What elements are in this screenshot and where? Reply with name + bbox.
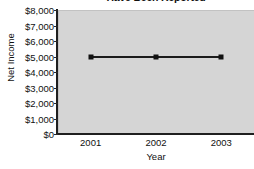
x-axis-tick-label: 2002 <box>128 137 184 148</box>
data-line-segment <box>156 56 221 58</box>
y-axis-tick-label: $7,000 <box>12 20 54 31</box>
y-axis-tick-label: $2,000 <box>12 98 54 109</box>
x-axis-tick-label: 2001 <box>63 137 119 148</box>
y-axis-tick-label: $5,000 <box>12 51 54 62</box>
y-axis-tick-label: $3,000 <box>12 82 54 93</box>
y-axis-tick-label: $1,000 <box>12 113 54 124</box>
chart-title: Have Been Reported <box>58 0 254 3</box>
y-axis-tick-mark <box>54 134 58 135</box>
data-point-marker <box>154 54 159 59</box>
data-line-segment <box>91 56 156 58</box>
y-axis-tick-mark <box>54 88 58 89</box>
y-axis-tick-mark <box>54 57 58 58</box>
data-point-marker <box>88 54 93 59</box>
y-axis-tick-label: $4,000 <box>12 67 54 78</box>
x-axis-tick-label: 2003 <box>193 137 249 148</box>
y-axis-tick-label: $8,000 <box>12 5 54 16</box>
y-axis-tick-mark <box>54 10 58 11</box>
y-axis-tick-mark <box>54 72 58 73</box>
data-series-layer <box>58 10 254 134</box>
x-axis-title: Year <box>58 151 254 162</box>
line-chart-figure: Have Been Reported Net Income $0$1,000$2… <box>0 0 254 169</box>
y-axis-tick-mark <box>54 103 58 104</box>
y-axis-tick-mark <box>54 119 58 120</box>
y-axis-tick-label: $6,000 <box>12 36 54 47</box>
y-axis-tick-mark <box>54 26 58 27</box>
data-point-marker <box>219 54 224 59</box>
x-axis-tick-labels: 200120022003 <box>0 137 254 151</box>
y-axis-tick-mark <box>54 41 58 42</box>
